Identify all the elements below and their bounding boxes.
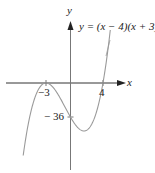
equation-label: y = (x − 4)(x + 3)2 bbox=[79, 19, 155, 32]
tick-label-4: 4 bbox=[99, 86, 105, 98]
y-axis-arrow-icon bbox=[68, 21, 74, 30]
equation-text: y = (x − 4)(x + 3) bbox=[79, 20, 155, 32]
x-axis-label: x bbox=[127, 76, 132, 88]
label-leader-line bbox=[106, 40, 110, 56]
x-axis-arrow-icon bbox=[117, 80, 126, 86]
tick-label-neg3: −3 bbox=[38, 86, 50, 98]
y-axis-label: y bbox=[67, 4, 72, 16]
tick-label-neg36: − 36 bbox=[44, 110, 64, 122]
cubic-curve bbox=[23, 30, 110, 156]
graph-figure: y x y = (x − 4)(x + 3)2 −3 4 − 36 bbox=[0, 0, 155, 173]
